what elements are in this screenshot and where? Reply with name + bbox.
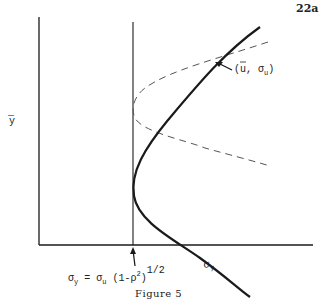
formula-arrowhead [130, 247, 136, 254]
sigma-y-label: σy [203, 258, 215, 273]
figure-caption: Figure 5 [135, 288, 182, 299]
point-label: (u, σu) [234, 64, 274, 77]
y-axis-label: y [9, 116, 15, 127]
dashed-curve [133, 42, 270, 166]
asymptote-formula: σy = σu (1-ρ2)1/2 [68, 265, 165, 286]
figure-5: 22a _ y (u, σu) σy σy = σu (1-ρ2)1/2 Fig… [0, 0, 321, 300]
page-number: 22a [296, 2, 318, 15]
